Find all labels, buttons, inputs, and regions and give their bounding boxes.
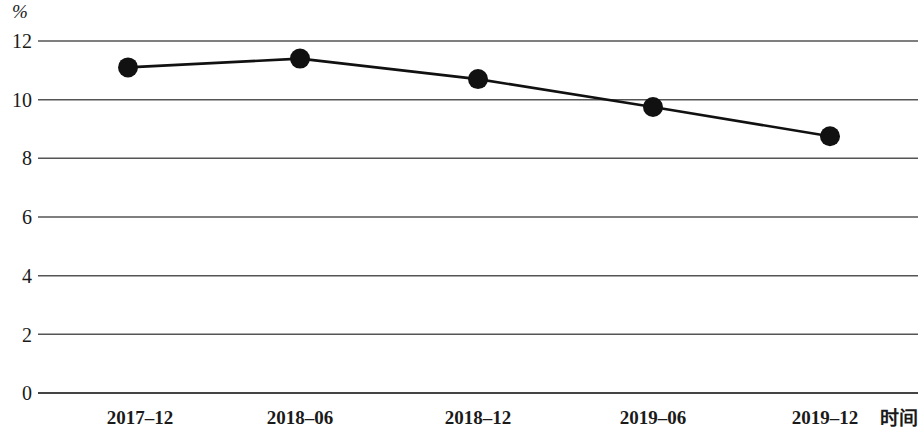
data-point-1 <box>290 49 310 69</box>
x-tick-label-3: 2019–06 <box>603 408 703 427</box>
data-point-3 <box>643 97 663 117</box>
line-chart: % 12 10 8 6 4 2 0 2017–12 2018–06 2018–1… <box>0 0 920 437</box>
plot-area <box>0 0 920 437</box>
data-point-4 <box>820 126 840 146</box>
x-tick-label-0: 2017–12 <box>90 408 190 427</box>
data-point-0 <box>118 57 138 77</box>
x-tick-label-4: 2019–12 <box>775 408 875 427</box>
x-axis-title: 时间 <box>880 409 918 428</box>
x-tick-label-1: 2018–06 <box>250 408 350 427</box>
x-tick-label-2: 2018–12 <box>428 408 528 427</box>
gridlines <box>38 41 918 393</box>
data-point-2 <box>468 69 488 89</box>
